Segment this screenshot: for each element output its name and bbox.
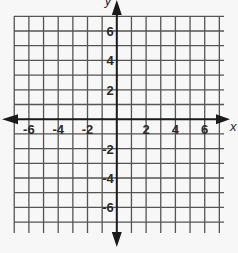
y-tick-label: -6 — [102, 200, 114, 215]
y-axis-down-arrow-icon — [112, 232, 122, 247]
y-axis-up-arrow-icon — [112, 0, 122, 15]
coordinate-plane: -6-4-2246642-2-4-6xy — [0, 0, 238, 253]
x-tick-label: -2 — [82, 122, 94, 137]
y-tick-label: 4 — [107, 53, 115, 68]
y-tick-label: 6 — [107, 24, 114, 39]
y-tick-label: 2 — [107, 83, 114, 98]
x-tick-label: 6 — [201, 122, 208, 137]
x-tick-label: 4 — [172, 122, 180, 137]
grid-lines — [14, 16, 224, 233]
x-tick-label: -6 — [23, 122, 35, 137]
x-axis-right-arrow-icon — [216, 114, 230, 124]
y-tick-label: -2 — [102, 142, 114, 157]
x-tick-label: 2 — [142, 122, 149, 137]
axes — [2, 0, 230, 247]
x-axis-label: x — [229, 119, 237, 134]
y-axis-label: y — [104, 0, 113, 8]
x-tick-label: -4 — [52, 122, 64, 137]
y-tick-label: -4 — [102, 171, 114, 186]
x-axis-left-arrow-icon — [2, 114, 18, 124]
